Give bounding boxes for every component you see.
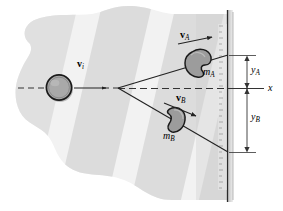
background-blob [0,0,283,211]
label-y-b: yB [251,112,260,124]
label-y-a: yA [251,65,260,77]
diagram-canvas [0,0,283,211]
label-x-axis: x [268,83,272,93]
wall-ruler-scale [218,24,227,190]
label-v-initial: vi [77,59,84,71]
physics-diagram-figure: vi vA vB mA mB yA yB x [0,0,283,211]
label-m-b: mB [163,131,175,143]
label-v-b: vB [176,93,185,105]
label-m-a: mA [203,67,215,79]
vertical-wall [228,10,234,202]
label-v-a: vA [180,30,189,42]
